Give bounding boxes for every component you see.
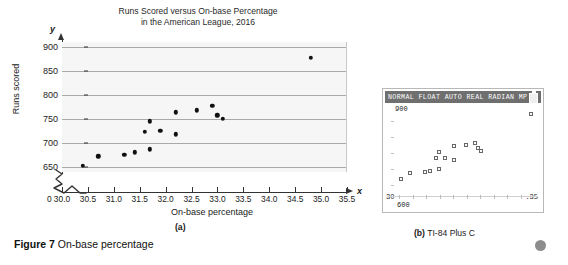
- gridline: [62, 71, 346, 72]
- gridline: [62, 119, 346, 120]
- x-tick-mark: [269, 187, 270, 192]
- calculator-x-tick: [507, 195, 508, 199]
- calculator-x-axis: [388, 196, 538, 197]
- figure-caption-lead: Figure 7: [14, 238, 55, 250]
- x-tick-label: 34.0: [261, 194, 277, 204]
- calculator-y-tick: [391, 185, 394, 186]
- calculator-y-tick: [391, 137, 394, 138]
- data-point: [309, 56, 313, 60]
- x-tick-mark: [114, 187, 115, 192]
- calculator-data-point: [479, 149, 483, 153]
- calculator-x-tick: [440, 195, 441, 199]
- x-tick-mark: [140, 187, 141, 192]
- x-axis-line: [62, 192, 347, 193]
- calculator-x-tick: [494, 195, 495, 199]
- x-axis-title: On-base percentage: [132, 207, 292, 217]
- data-point: [122, 152, 126, 156]
- data-point: [148, 119, 152, 123]
- figure-caption: Figure 7 On-base percentage: [14, 238, 154, 250]
- x-tick-mark: [347, 187, 348, 192]
- y-tick-label: 700: [43, 138, 58, 148]
- panel-b-calculator: NORMAL FLOAT AUTO REAL RADIAN MP 900 600…: [382, 88, 544, 213]
- gridline: [62, 167, 346, 168]
- y-tick-label: 800: [43, 90, 58, 100]
- data-point: [132, 150, 136, 154]
- calculator-data-point: [464, 143, 468, 147]
- panel-b-label-lead: (b): [414, 228, 425, 238]
- calculator-x-tick: [413, 195, 414, 199]
- calculator-data-point: [437, 150, 441, 154]
- x-tick-mark: [166, 187, 167, 192]
- gridline: [62, 95, 346, 96]
- y-tick-mark: [84, 143, 88, 144]
- calculator-data-point: [452, 144, 456, 148]
- panel-b-label-text: TI-84 Plus C: [427, 228, 475, 238]
- calculator-data-point: [434, 156, 438, 160]
- y-axis-title: Runs scored: [11, 49, 21, 129]
- data-point: [143, 130, 147, 134]
- calculator-data-point: [443, 156, 447, 160]
- x-tick-mark: [192, 187, 193, 192]
- gridline: [62, 143, 346, 144]
- gridline: [62, 47, 346, 48]
- data-point: [195, 108, 199, 112]
- calculator-x-tick: [467, 195, 468, 199]
- x-tick-label: 35.5: [339, 194, 355, 204]
- calculator-status-bar: NORMAL FLOAT AUTO REAL RADIAN MP: [385, 91, 541, 103]
- x-tick-label: 33.5: [235, 194, 251, 204]
- calculator-status-text: NORMAL FLOAT AUTO REAL RADIAN MP: [385, 94, 527, 101]
- calculator-data-point: [423, 170, 427, 174]
- x-tick-label: 32.5: [183, 194, 199, 204]
- calculator-screen: 900 600 30 .35: [385, 103, 541, 210]
- x-tick-mark: [217, 187, 218, 192]
- x-tick-mark: [321, 187, 322, 192]
- data-point: [215, 113, 219, 117]
- data-point: [174, 132, 178, 136]
- y-tick-label: 750: [43, 114, 58, 124]
- calculator-data-point: [428, 169, 432, 173]
- figure-caption-text: On-base percentage: [58, 238, 154, 250]
- calculator-x-tick: [480, 195, 481, 199]
- calculator-y-tick: [391, 169, 394, 170]
- calculator-x-tick: [521, 195, 522, 199]
- battery-icon: [529, 93, 538, 104]
- data-point: [220, 117, 224, 121]
- panel-a-scatterplot: Runs Scored versus On-base Percentage in…: [0, 0, 372, 232]
- x-variable-label: x: [357, 186, 362, 196]
- x-tick-label: 35.0: [313, 194, 329, 204]
- calculator-data-point: [399, 177, 403, 181]
- panel-b-label: (b) TI-84 Plus C: [414, 228, 475, 238]
- y-tick-mark: [84, 70, 88, 71]
- x-tick-mark: [295, 187, 296, 192]
- x-tick-label: 31.5: [132, 194, 148, 204]
- x-tick-label: 30.5: [80, 194, 96, 204]
- y-tick-mark: [84, 119, 88, 120]
- panel-a-label: (a): [175, 222, 186, 232]
- origin-label: 0: [47, 194, 52, 204]
- calculator-data-point: [473, 141, 477, 145]
- x-tick-label: 30.0: [54, 194, 70, 204]
- calculator-data-point: [529, 112, 533, 116]
- calculator-data-point: [437, 167, 441, 171]
- calculator-x-tick: [426, 195, 427, 199]
- y-tick-mark: [84, 94, 88, 95]
- x-tick-label: 31.0: [106, 194, 122, 204]
- calculator-y-tick: [391, 153, 394, 154]
- x-tick-label: 33.0: [209, 194, 225, 204]
- chart-title-line2: in the American League, 2016: [48, 17, 348, 28]
- data-point: [96, 154, 100, 158]
- x-tick-label: 32.0: [157, 194, 173, 204]
- y-tick-label: 900: [43, 42, 58, 52]
- calculator-plot-area: [389, 107, 537, 194]
- calculator-ymin-label: 600: [397, 201, 410, 209]
- y-tick-label: 850: [43, 66, 58, 76]
- x-tick-label: 34.5: [287, 194, 303, 204]
- chart-title: Runs Scored versus On-base Percentage in…: [48, 6, 348, 28]
- plot-area: [62, 42, 347, 172]
- data-point: [210, 104, 214, 108]
- chart-title-line1: Runs Scored versus On-base Percentage: [48, 6, 348, 17]
- x-tick-mark: [243, 187, 244, 192]
- figure-container: Runs Scored versus On-base Percentage in…: [0, 0, 568, 265]
- data-point: [158, 129, 162, 133]
- x-tick-mark: [88, 187, 89, 192]
